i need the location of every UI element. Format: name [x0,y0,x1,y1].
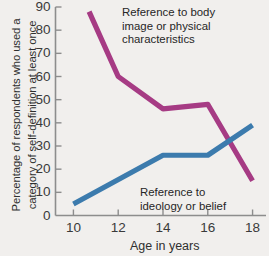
y-axis-title: Percentage of respondents who used a cat… [0,0,46,230]
series-annotation-body-image: Reference to body image or physical char… [122,6,215,47]
y-axis-title-line-2: category of self-definition at least onc… [26,21,38,210]
x-tick-label-16: 16 [200,220,215,235]
x-axis-title: Age in years [130,239,199,253]
line-chart: 01020304050607080901012141618Age in year… [0,0,269,256]
x-tick-label-10: 10 [66,220,81,235]
x-tick-label-12: 12 [111,220,126,235]
series-annotation-ideology: Reference to ideology or belief [140,186,226,213]
y-axis-title-line-1: Percentage of respondents who used a [10,19,22,212]
x-tick-label-14: 14 [155,220,171,235]
x-tick-label-18: 18 [245,220,260,235]
